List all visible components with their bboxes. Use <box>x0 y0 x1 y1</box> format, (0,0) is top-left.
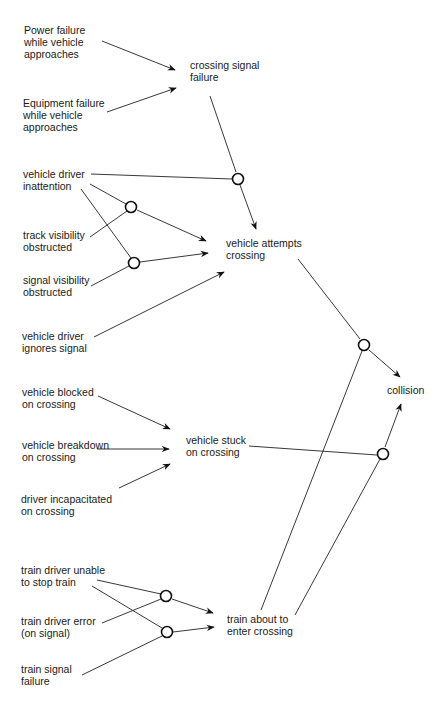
edge-g6-to-train <box>172 599 213 613</box>
edge-inattention-to-g2 <box>90 184 126 204</box>
node-collision: collision <box>387 384 424 396</box>
edge-equipment-to-signal <box>107 88 176 112</box>
node-signal-visibility: signal visibility obstructed <box>23 274 90 298</box>
edge-stuck-to-g5 <box>249 446 377 455</box>
edge-unable-to-g6 <box>97 580 161 594</box>
edge-incapacitated-to-stuck <box>119 464 170 488</box>
gate-g1-icon <box>233 174 244 185</box>
edge-inattention-to-g3 <box>81 189 131 258</box>
node-vehicle-attempts: vehicle attempts crossing <box>226 237 302 261</box>
edge-inattention-to-g1 <box>91 174 232 179</box>
edge-blocked-to-stuck <box>98 396 170 429</box>
gate-g6-icon <box>161 591 172 602</box>
gate-g5-icon <box>378 449 389 460</box>
edge-signalvis-to-g3 <box>91 266 129 286</box>
edge-ignores-to-attempts <box>94 272 224 337</box>
node-vehicle-breakdown: vehicle breakdown on crossing <box>22 439 109 463</box>
edge-attempts-to-g4 <box>298 259 360 339</box>
edge-track-to-g2 <box>90 211 127 237</box>
edge-power-to-signal <box>102 41 175 70</box>
node-train-signal-failure: train signal failure <box>21 663 72 687</box>
edge-g5-to-collision <box>385 404 401 447</box>
node-equipment-failure: Equipment failure while vehicle approach… <box>23 97 105 133</box>
node-train-unable-stop: train driver unable to stop train <box>21 564 105 588</box>
node-train-driver-error: train driver error (on signal) <box>21 615 96 639</box>
node-driver-ignores: vehicle driver ignores signal <box>22 330 87 354</box>
node-driver-inattention: vehicle driver inattention <box>23 168 85 192</box>
gate-g7-icon <box>162 627 173 638</box>
edge-g7-to-train <box>173 627 214 632</box>
edge-train-to-g4 <box>261 351 362 610</box>
edge-g2-to-attempts <box>137 210 206 241</box>
edge-g1-to-attempts <box>240 185 256 229</box>
edge-signal-to-g1 <box>210 96 236 172</box>
node-crossing-signal-failure: crossing signal failure <box>190 59 259 83</box>
edge-g4-to-collision <box>369 350 400 377</box>
edge-tsignal-to-g7 <box>82 636 162 675</box>
edge-error-to-g6 <box>102 599 161 623</box>
gate-g2-icon <box>126 202 137 213</box>
edge-g3-to-attempts <box>140 253 208 262</box>
node-vehicle-stuck: vehicle stuck on crossing <box>186 434 246 458</box>
node-driver-incapacitated: driver incapacitated on crossing <box>21 493 112 517</box>
node-power-failure: Power failure while vehicle approaches <box>24 24 85 60</box>
node-train-about-enter: train about to enter crossing <box>227 613 293 637</box>
node-vehicle-blocked: vehicle blocked on crossing <box>22 386 94 410</box>
gate-g4-icon <box>359 340 370 351</box>
node-track-visibility: track visibility obstructed <box>23 229 85 253</box>
edge-train-to-g5 <box>295 459 380 615</box>
gate-g3-icon <box>129 258 140 269</box>
